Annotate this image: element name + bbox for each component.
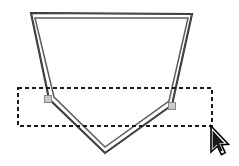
vector-editor-canvas[interactable] (0, 0, 239, 166)
selection-handle-left[interactable] (45, 96, 52, 103)
canvas-background (0, 0, 239, 166)
drawing-surface[interactable] (0, 0, 239, 166)
selection-handle-right[interactable] (169, 103, 176, 110)
